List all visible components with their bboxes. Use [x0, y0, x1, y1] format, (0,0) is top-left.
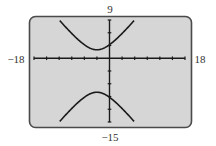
ymin-label: −15: [101, 131, 119, 143]
calculator-graph: 9 −15 −18 18: [0, 0, 216, 146]
xmax-label: 18: [195, 53, 207, 65]
xmin-label: −18: [7, 53, 25, 65]
ymax-label: 9: [107, 3, 113, 15]
